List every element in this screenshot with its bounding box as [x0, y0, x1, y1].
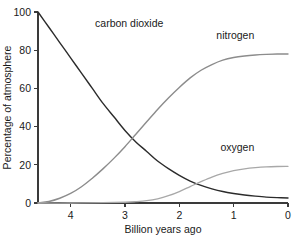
y-axis-title: Percentage of atmosphere [1, 45, 13, 169]
x-tick-label-3: 3 [122, 209, 128, 221]
y-tick-label-20: 20 [19, 159, 31, 171]
y-tick-label-80: 80 [19, 44, 31, 56]
series-label-carbon-dioxide: carbon dioxide [95, 17, 163, 29]
y-tick-label-0: 0 [25, 197, 31, 209]
series-line-oxygen [38, 166, 288, 203]
series-line-nitrogen [38, 54, 288, 203]
chart-series-labels: carbon dioxidenitrogenoxygen [95, 17, 254, 153]
series-label-nitrogen: nitrogen [216, 29, 254, 41]
line-chart: 02040608010043210 carbon dioxidenitrogen… [0, 0, 296, 239]
x-tick-label-0: 0 [285, 209, 291, 221]
x-tick-label-1: 1 [231, 209, 237, 221]
y-tick-label-60: 60 [19, 82, 31, 94]
y-tick-label-100: 100 [13, 6, 31, 18]
x-tick-label-4: 4 [68, 209, 74, 221]
chart-axis-titles: Billion years agoPercentage of atmospher… [1, 45, 202, 235]
y-tick-label-40: 40 [19, 120, 31, 132]
series-label-oxygen: oxygen [220, 141, 254, 153]
chart-tick-marks [34, 12, 288, 207]
x-axis-title: Billion years ago [124, 223, 201, 235]
x-tick-label-2: 2 [176, 209, 182, 221]
chart-figure: 02040608010043210 carbon dioxidenitrogen… [0, 0, 296, 239]
